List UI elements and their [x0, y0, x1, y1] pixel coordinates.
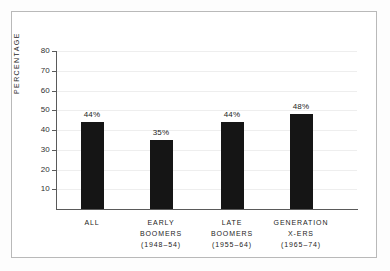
y-axis-tick-group: 8070605040302010: [0, 0, 50, 271]
x-axis-category-label-line: (1965–74): [256, 239, 346, 250]
chart-figure: PERCENTAGE 8070605040302010 ALLEARLYBOOM…: [0, 0, 390, 271]
y-axis-tick-label: 70: [26, 67, 50, 75]
y-axis-tick-label: 60: [26, 87, 50, 95]
bar[interactable]: [290, 114, 313, 209]
x-axis-category-label: GENERATIONX-ERS(1965–74): [256, 217, 346, 250]
x-axis-category-label-line: X-ERS: [256, 228, 346, 239]
bar[interactable]: [81, 122, 104, 209]
gridline: [57, 71, 357, 72]
y-axis-tick-label: 80: [26, 47, 50, 55]
bar[interactable]: [221, 122, 244, 209]
y-axis-tick-label: 30: [26, 146, 50, 154]
x-axis-category-label-line: GENERATION: [256, 217, 346, 228]
bar[interactable]: [150, 140, 173, 209]
y-axis-tick-label: 20: [26, 166, 50, 174]
bar-value-label: 35%: [138, 128, 184, 137]
x-axis-line: [56, 209, 358, 210]
y-axis-tick-label: 50: [26, 106, 50, 114]
gridline: [57, 51, 357, 52]
bar-value-label: 48%: [278, 102, 324, 111]
bar-value-label: 44%: [69, 110, 115, 119]
bar-value-label: 44%: [209, 110, 255, 119]
y-axis-tick-label: 10: [26, 185, 50, 193]
plot-area: [57, 51, 357, 209]
gridline: [57, 91, 357, 92]
y-axis-tick-label: 40: [26, 126, 50, 134]
